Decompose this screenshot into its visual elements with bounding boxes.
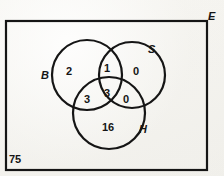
region-count-s-only: 0 (133, 66, 139, 77)
region-count-b-and-h: 3 (84, 94, 90, 105)
set-label-B: B (41, 70, 49, 81)
region-count-b-and-s: 1 (104, 63, 110, 74)
region-count-b-only: 2 (66, 66, 72, 77)
region-count-s-and-h: 0 (123, 94, 129, 105)
set-label-S: S (148, 44, 155, 55)
venn-diagram-svg (0, 0, 224, 176)
region-count-b-and-s-and-h: 3 (104, 88, 110, 99)
region-count-h-only: 16 (102, 122, 114, 133)
venn-diagram-page: B S H E 2 1 0 3 3 0 16 75 (0, 0, 224, 176)
set-label-H: H (139, 124, 147, 135)
universal-set-symbol: E (208, 11, 215, 22)
universe-total-count: 75 (9, 154, 21, 165)
